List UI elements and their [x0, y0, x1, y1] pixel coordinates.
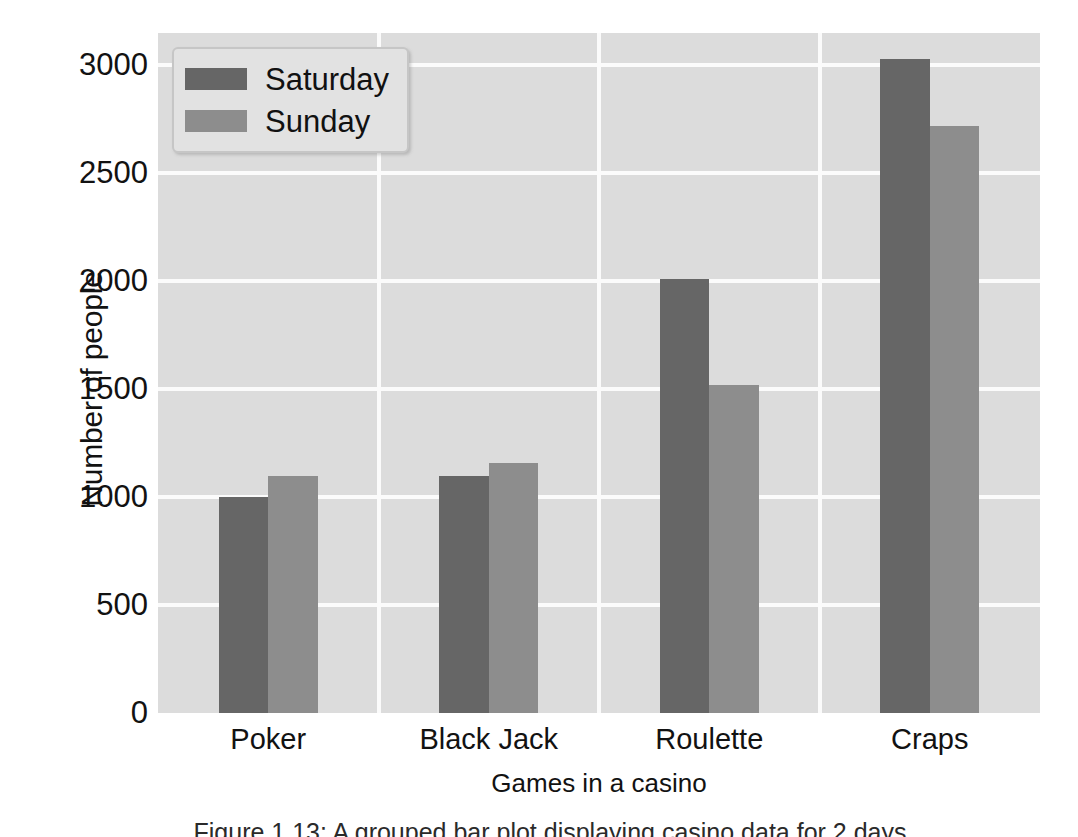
bar-roulette-saturday: [660, 279, 710, 713]
plot-area: Saturday Sunday: [158, 33, 1040, 713]
bar-black-jack-sunday: [489, 463, 539, 713]
bar-craps-saturday: [880, 59, 930, 713]
legend-entry-sunday: Sunday: [185, 100, 389, 142]
legend-swatch-saturday: [185, 68, 247, 90]
x-axis-tick-labels: PokerBlack JackRouletteCraps: [158, 723, 1040, 769]
figure-caption: Figure 1.13: A grouped bar plot displayi…: [150, 818, 950, 837]
bar-roulette-sunday: [709, 385, 759, 713]
x-tick-label-poker: Poker: [230, 723, 306, 756]
chart-legend: Saturday Sunday: [172, 47, 409, 153]
x-tick-label-craps: Craps: [891, 723, 968, 756]
y-tick-label-3000: 3000: [28, 49, 148, 80]
bar-craps-sunday: [930, 126, 980, 713]
y-tick-label-1500: 1500: [28, 373, 148, 404]
bar-poker-sunday: [268, 476, 318, 713]
legend-swatch-sunday: [185, 110, 247, 132]
y-tick-label-1000: 1000: [28, 481, 148, 512]
gridline-x-3: [818, 33, 822, 713]
legend-label-saturday: Saturday: [265, 64, 389, 95]
y-tick-label-0: 0: [28, 697, 148, 728]
bar-poker-saturday: [219, 497, 269, 713]
legend-label-sunday: Sunday: [265, 106, 370, 137]
gridline-x-2: [597, 33, 601, 713]
x-tick-label-roulette: Roulette: [655, 723, 763, 756]
bar-black-jack-saturday: [439, 476, 489, 713]
x-axis-title: Games in a casino: [158, 768, 1040, 799]
legend-entry-saturday: Saturday: [185, 58, 389, 100]
y-tick-label-500: 500: [28, 589, 148, 620]
y-tick-label-2500: 2500: [28, 157, 148, 188]
y-axis-tick-labels: 050010001500200025003000: [0, 0, 148, 837]
y-tick-label-2000: 2000: [28, 265, 148, 296]
bar-chart-figure: Number of people 05001000150020002500300…: [0, 0, 1078, 837]
x-tick-label-black-jack: Black Jack: [419, 723, 558, 756]
